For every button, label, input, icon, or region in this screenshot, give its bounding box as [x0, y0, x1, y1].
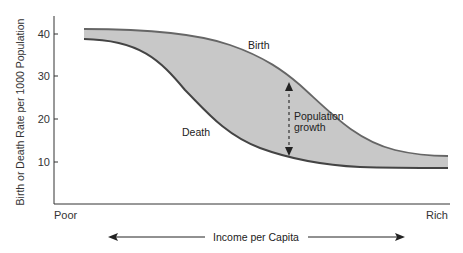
y-tick-10: 10 — [38, 156, 50, 168]
x-axis-title: Income per Capita — [213, 231, 299, 243]
y-tick-40: 40 — [38, 28, 50, 40]
birth-label: Birth — [248, 39, 270, 51]
y-tick-30: 30 — [38, 70, 50, 82]
x-label-poor: Poor — [54, 209, 78, 221]
death-label: Death — [182, 126, 210, 138]
y-axis-title: Birth or Death Rate per 1000 Population — [14, 18, 26, 205]
y-tick-20: 20 — [38, 113, 50, 125]
x-label-rich: Rich — [426, 209, 448, 221]
y-ticks — [54, 34, 58, 162]
chart-canvas: 40 30 20 10 Birth or Death Rate per 1000… — [0, 0, 463, 253]
population-growth-label-2: growth — [294, 121, 326, 133]
